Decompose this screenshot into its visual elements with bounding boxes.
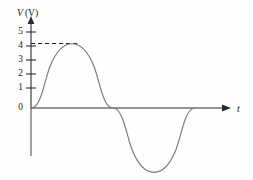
y-axis-symbol: V	[17, 7, 24, 18]
y-axis-label: V(V)	[17, 7, 38, 19]
y-tick-label-5: 5	[18, 26, 23, 36]
y-tick-label-0: 0	[18, 102, 23, 112]
x-axis-arrow-icon	[222, 104, 231, 111]
y-tick-label-4: 4	[18, 40, 23, 50]
waveform-svg: V(V) 5 4 3 2 1 0 t	[0, 0, 253, 180]
y-tick-label-1: 1	[18, 82, 23, 92]
y-axis-unit: (V)	[25, 7, 38, 19]
x-axis-label: t	[237, 103, 240, 114]
y-tick-label-3: 3	[18, 54, 23, 64]
y-tick-label-2: 2	[18, 68, 23, 78]
waveform-figure: V(V) 5 4 3 2 1 0 t	[0, 0, 253, 180]
